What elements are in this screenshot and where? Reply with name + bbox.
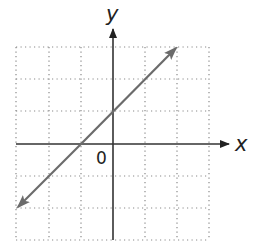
origin-label: 0 bbox=[96, 150, 107, 167]
y-axis-label: y bbox=[106, 4, 118, 25]
coordinate-plane: y x 0 bbox=[0, 0, 257, 248]
x-axis-label: x bbox=[235, 134, 247, 155]
function-line-down bbox=[18, 144, 81, 207]
function-line-up bbox=[81, 48, 176, 144]
graph-svg bbox=[0, 0, 257, 248]
